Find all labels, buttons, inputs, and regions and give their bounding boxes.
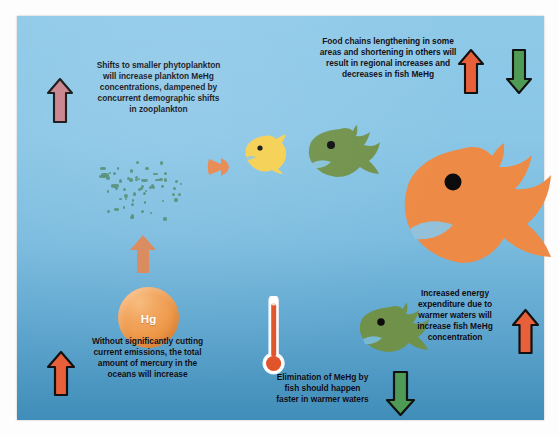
fish-eye	[327, 141, 335, 149]
caption-line: result in regional increases and	[285, 58, 491, 69]
plankton-dot	[106, 176, 110, 180]
plankton-dot	[175, 180, 178, 183]
plankton-dot	[130, 169, 134, 173]
caption-line: fish should happen	[259, 383, 386, 394]
plankton-dot	[141, 185, 144, 188]
plankton-dot	[141, 179, 148, 182]
thermometer-icon	[260, 296, 286, 378]
plankton-dot	[180, 183, 182, 185]
plankton-dot	[124, 194, 128, 198]
green-fish-upper	[305, 125, 382, 189]
caption-line: Food chains lengthening in some	[285, 36, 491, 47]
plankton-dot	[132, 199, 135, 202]
caption-line: Increased energy	[402, 288, 508, 299]
plankton-dot	[144, 201, 146, 203]
plankton-dot	[114, 208, 120, 211]
food-chains-down-arrow	[506, 49, 532, 94]
plankton-dot	[136, 161, 140, 165]
caption-phytoplankton: Shifts to smaller phytoplankton will inc…	[63, 60, 254, 115]
plankton-dot	[117, 167, 120, 170]
plankton-dot	[172, 193, 175, 196]
plankton-dot	[107, 210, 110, 213]
plankton-dot	[161, 185, 164, 188]
yellow-fish	[243, 133, 288, 175]
plankton-dot	[151, 184, 155, 188]
ocean-panel: Hg	[17, 16, 544, 420]
plankton-dot	[107, 190, 110, 193]
plankton-dot	[119, 179, 123, 183]
plankton-dot	[153, 173, 158, 175]
caption-line: concurrent demographic shifts	[63, 93, 254, 104]
plankton-dot	[173, 187, 176, 190]
caption-line: areas and shortening in others will	[285, 47, 491, 58]
plankton-dot	[163, 217, 167, 221]
plankton-dot	[138, 188, 141, 191]
caption-line: oceans will increase	[60, 369, 235, 380]
plankton-dot	[174, 198, 177, 201]
plankton-dot	[113, 172, 116, 175]
plankton-dot	[178, 193, 182, 197]
plankton-dot	[115, 187, 118, 190]
caption-line: expenditure due to	[402, 299, 508, 310]
caption-line: current emissions, the total	[60, 347, 235, 358]
mercury-symbol: Hg	[141, 313, 156, 325]
orange-fish-large	[401, 143, 556, 268]
plankton-dot	[123, 188, 126, 191]
plankton-dot	[131, 203, 134, 206]
plankton-dot	[100, 167, 105, 169]
caption-line: warmer waters will	[402, 310, 508, 321]
plankton-dot	[150, 212, 152, 214]
caption-emissions: Without significantly cutting current em…	[60, 336, 235, 380]
caption-line: will increase plankton MeHg	[63, 71, 254, 82]
energy-up-arrow	[512, 309, 539, 354]
caption-line: Elimination of MeHg by	[259, 372, 386, 383]
plankton-dot	[160, 161, 163, 164]
figure-canvas: Hg	[0, 0, 559, 437]
plankton-dot	[141, 210, 145, 214]
fish-eye	[445, 174, 462, 191]
small-orange-fish	[206, 156, 232, 178]
caption-line: amount of mercury in the	[60, 358, 235, 369]
plankton-dot	[145, 167, 148, 170]
plankton-cluster	[87, 150, 199, 228]
mercury-flux-up-arrow	[129, 234, 157, 274]
caption-elimination: Elimination of MeHg by fish should happe…	[259, 372, 386, 405]
plankton-dot	[143, 192, 146, 195]
caption-line: faster in warmer waters	[259, 394, 386, 405]
plankton-dot	[130, 216, 133, 219]
plankton-dot	[99, 175, 107, 178]
caption-line: decreases in fish MeHg	[285, 69, 491, 80]
plankton-dot	[138, 178, 140, 180]
caption-energy-expenditure: Increased energy expenditure due to warm…	[402, 288, 508, 343]
fish-eye	[257, 145, 262, 150]
plankton-dot	[133, 192, 137, 196]
plankton-dot	[129, 178, 132, 181]
caption-line: Without significantly cutting	[60, 336, 235, 347]
plankton-dot	[164, 172, 167, 175]
plankton-dot	[123, 206, 126, 209]
caption-food-chains: Food chains lengthening in some areas an…	[285, 36, 491, 80]
caption-line: concentration	[402, 332, 508, 343]
plankton-dot	[119, 198, 122, 201]
elimination-down-arrow	[386, 371, 415, 416]
caption-line: increase fish MeHg	[402, 321, 508, 332]
plankton-dot	[162, 200, 164, 202]
fish-eye	[377, 318, 385, 326]
plankton-dot	[109, 172, 111, 174]
caption-line: concentrations, dampened by	[63, 82, 254, 93]
caption-line: in zooplankton	[63, 104, 254, 115]
caption-line: Shifts to smaller phytoplankton	[63, 60, 254, 71]
plankton-dot	[164, 178, 167, 181]
